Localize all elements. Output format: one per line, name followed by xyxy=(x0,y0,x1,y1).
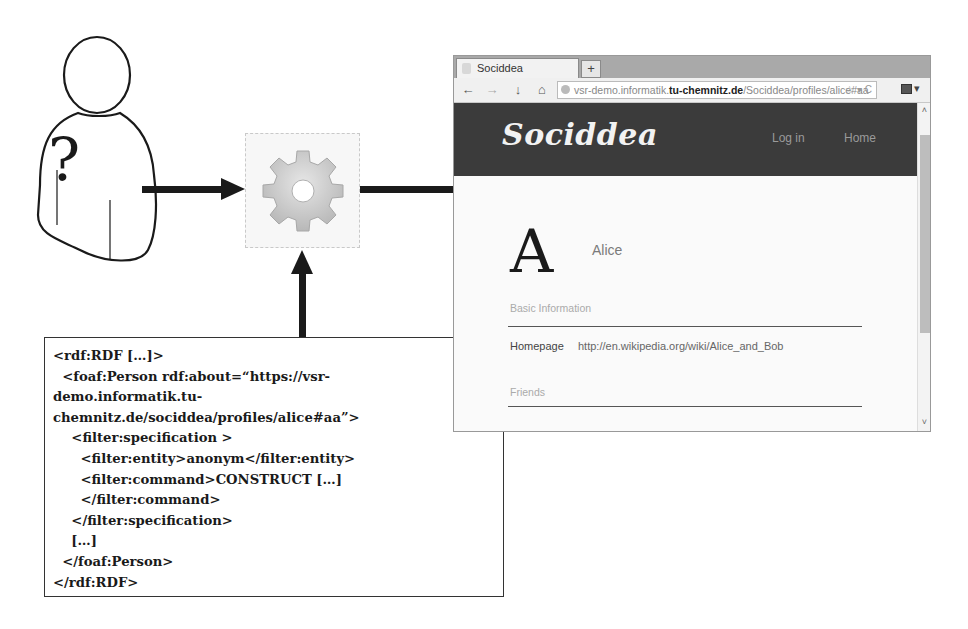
tab-bar: Sociddea + xyxy=(454,56,930,78)
processor-box xyxy=(245,133,360,248)
navigation-bar: ← → ↓ ⌂ vsr-demo.informatik.tu-chemnitz.… xyxy=(454,78,930,103)
site-header: Sociddea Log in Home xyxy=(454,103,917,176)
tab-title: Sociddea xyxy=(477,62,523,74)
forward-arrow-icon[interactable]: → xyxy=(484,82,500,98)
chevron-down-icon: ▾ xyxy=(914,82,920,95)
avatar: A xyxy=(510,221,553,281)
download-icon[interactable]: ↓ xyxy=(510,82,526,98)
new-tab-button[interactable]: + xyxy=(581,60,601,78)
rdf-specification-box: <rdf:RDF […]> <foaf:Person rdf:about=“ht… xyxy=(44,337,504,597)
browser-window: Sociddea + ← → ↓ ⌂ vsr-demo.informatik.t… xyxy=(453,55,931,432)
divider xyxy=(508,406,862,407)
profile-name: Alice xyxy=(592,242,622,258)
bookmark-reload-icons[interactable]: ☆ ▾ C xyxy=(845,82,872,98)
vertical-scrollbar[interactable]: ˄ ˅ xyxy=(917,103,930,431)
gear-icon xyxy=(258,146,348,236)
arrowhead-icon xyxy=(291,250,313,274)
menu-icon xyxy=(901,84,912,94)
tab-sociddea[interactable]: Sociddea xyxy=(456,58,579,78)
arrow-user-to-processor xyxy=(142,186,222,193)
scroll-thumb[interactable] xyxy=(920,135,930,333)
url-host: tu-chemnitz.de xyxy=(669,84,743,96)
home-icon[interactable]: ⌂ xyxy=(534,82,550,98)
divider xyxy=(508,326,862,327)
site-logo[interactable]: Sociddea xyxy=(502,117,658,152)
browser-menu-button[interactable]: ▾ xyxy=(899,82,923,98)
section-title-basic-information: Basic Information xyxy=(510,302,591,314)
page-viewport: Sociddea Log in Home A Alice Basic Infor… xyxy=(454,103,930,431)
homepage-link[interactable]: http://en.wikipedia.org/wiki/Alice_and_B… xyxy=(578,340,783,352)
section-title-friends: Friends xyxy=(510,386,545,398)
home-link[interactable]: Home xyxy=(844,131,876,145)
globe-icon xyxy=(561,85,570,94)
rdf-code: <rdf:RDF […]> <foaf:Person rdf:about=“ht… xyxy=(45,338,503,593)
favicon-icon xyxy=(462,63,471,74)
scroll-up-icon[interactable]: ˄ xyxy=(919,105,930,115)
login-link[interactable]: Log in xyxy=(772,131,805,145)
scroll-down-icon[interactable]: ˅ xyxy=(919,417,930,427)
address-bar[interactable]: vsr-demo.informatik.tu-chemnitz.de/Socid… xyxy=(557,81,877,99)
arrowhead-icon xyxy=(221,178,245,200)
back-arrow-icon[interactable]: ← xyxy=(460,82,476,98)
homepage-label: Homepage xyxy=(510,340,564,352)
url-prefix: vsr-demo.informatik. xyxy=(574,84,669,96)
question-mark: ? xyxy=(48,130,80,190)
